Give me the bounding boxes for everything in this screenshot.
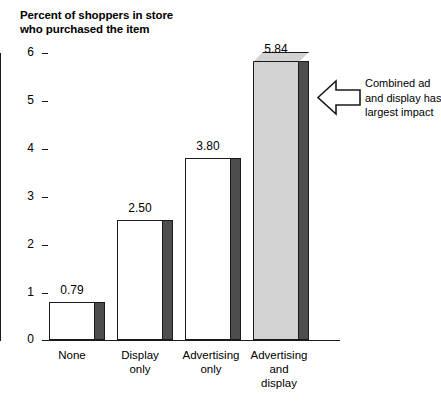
y-tick-label-0: 0	[27, 332, 34, 347]
x-category-label-none-line-1: None	[42, 348, 102, 362]
left-block-arrow-icon	[317, 79, 361, 116]
bar-front-face	[185, 158, 231, 340]
y-tick-label-4: 4	[27, 141, 34, 156]
bar-front-face	[117, 220, 163, 340]
y-tick-2: 2	[42, 245, 48, 246]
chart-title: Percent of shoppers in store who purchas…	[20, 8, 250, 36]
x-category-label-advertising-only-line-2: only	[174, 362, 248, 376]
y-axis-line	[0, 53, 1, 341]
y-tick-0: 0	[42, 340, 48, 341]
annotation-callout-text: Combined ad and display has largest impa…	[365, 76, 441, 120]
y-tick-5: 5	[42, 101, 48, 102]
y-tick-4: 4	[42, 149, 48, 150]
y-tick-label-3: 3	[27, 189, 34, 204]
x-category-label-display-only-line-1: Display	[110, 348, 170, 362]
annotation-line-1: Combined ad	[365, 76, 441, 91]
bar-display-only: 2.50	[117, 220, 163, 340]
bar-value-display-only: 2.50	[128, 201, 151, 215]
bar-front-face	[253, 61, 299, 340]
annotation-line-2: and display has	[365, 91, 441, 106]
y-tick-label-5: 5	[27, 93, 34, 108]
y-tick-1: 1	[42, 293, 48, 294]
y-tick-3: 3	[42, 197, 48, 198]
y-tick-label-1: 1	[27, 285, 34, 300]
chart-screenshot: Percent of shoppers in store who purchas…	[0, 0, 441, 411]
y-tick-label-2: 2	[27, 237, 34, 252]
x-category-label-advertising-and-display-line-2: and	[242, 362, 316, 376]
chart-title-line-2: who purchased the item	[20, 22, 250, 36]
x-category-label-advertising-only: Advertising only	[174, 348, 248, 376]
y-tick-6: 6	[42, 53, 48, 54]
x-category-label-advertising-and-display-line-1: Advertising	[242, 348, 316, 362]
bar-advertising-and-display: 5.84	[253, 61, 299, 340]
x-category-label-display-only: Display only	[110, 348, 170, 376]
y-tick-label-6: 6	[27, 45, 34, 60]
bar-value-advertising-and-display: 5.84	[264, 42, 287, 56]
bar-front-face	[49, 302, 95, 340]
bar-advertising-only: 3.80	[185, 158, 231, 340]
bar-side-face	[95, 302, 105, 340]
bar-side-face	[231, 158, 241, 340]
bar-side-face	[163, 220, 173, 340]
x-category-label-none: None	[42, 348, 102, 362]
x-axis-line	[48, 340, 340, 341]
annotation-line-3: largest impact	[365, 105, 441, 120]
chart-title-line-1: Percent of shoppers in store	[20, 8, 250, 22]
bar-value-advertising-only: 3.80	[196, 139, 219, 153]
x-category-label-display-only-line-2: only	[110, 362, 170, 376]
bar-side-face	[299, 61, 309, 340]
x-category-label-advertising-only-line-1: Advertising	[174, 348, 248, 362]
x-category-label-advertising-and-display-line-3: display	[242, 376, 316, 390]
x-category-label-advertising-and-display: Advertising and display	[242, 348, 316, 390]
bar-none: 0.79	[49, 302, 95, 340]
bar-value-none: 0.79	[60, 283, 83, 297]
